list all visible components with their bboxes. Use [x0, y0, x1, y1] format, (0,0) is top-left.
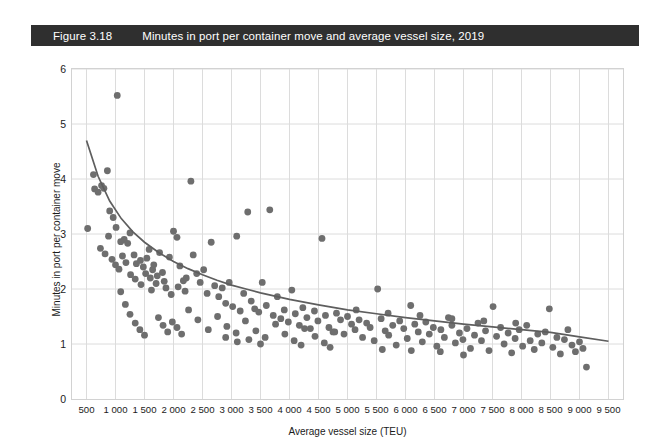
scatter-point [277, 315, 284, 322]
scatter-point [110, 214, 117, 221]
scatter-point [553, 334, 560, 341]
plot-area [71, 68, 624, 400]
scatter-point [208, 239, 215, 246]
scatter-point [512, 335, 519, 342]
scatter-point [460, 352, 467, 359]
scatter-point [331, 329, 338, 336]
scatter-point [222, 334, 229, 341]
scatter-point [147, 275, 154, 282]
scatter-point [281, 331, 288, 338]
scatter-point [389, 322, 396, 329]
scatter-point [379, 346, 386, 353]
scatter-point [374, 286, 381, 293]
scatter-point [150, 261, 157, 268]
x-tick-label: 8 500 [538, 404, 562, 415]
scatter-point [417, 312, 424, 319]
x-tick-label: 4 500 [306, 404, 330, 415]
scatter-point [437, 326, 444, 333]
scatter-point [123, 259, 130, 266]
y-tick-label: 4 [26, 173, 66, 185]
scatter-point [154, 272, 161, 279]
x-tick-label: 7 500 [480, 404, 504, 415]
x-tick-label: 5 000 [335, 404, 359, 415]
y-tick-label: 0 [26, 393, 66, 405]
scatter-point [452, 340, 459, 347]
scatter-point [285, 319, 292, 326]
scatter-point [102, 250, 109, 257]
scatter-point [501, 341, 508, 348]
scatter-point [400, 325, 407, 332]
scatter-point [117, 288, 124, 295]
y-tick-label: 1 [26, 338, 66, 350]
figure-number: Figure 3.18 [53, 30, 112, 42]
scatter-points-layer [72, 69, 623, 399]
scatter-point [315, 318, 322, 325]
scatter-point [116, 266, 123, 273]
scatter-point [234, 338, 241, 345]
x-tick-label: 9 000 [567, 404, 591, 415]
x-tick-label: 8 000 [509, 404, 533, 415]
x-tick-label: 3 500 [248, 404, 272, 415]
x-tick-label: 2 500 [190, 404, 214, 415]
scatter-point [178, 331, 185, 338]
scatter-point [441, 334, 448, 341]
scatter-point [493, 333, 500, 340]
scatter-point [183, 275, 190, 282]
scatter-point [404, 335, 411, 342]
scatter-point [508, 349, 515, 356]
scatter-point [301, 325, 308, 332]
scatter-point [333, 310, 340, 317]
scatter-point [246, 336, 253, 343]
scatter-point [95, 189, 102, 196]
scatter-point [248, 298, 255, 305]
scatter-point [478, 337, 485, 344]
scatter-point [538, 340, 545, 347]
scatter-point [299, 304, 306, 311]
y-tick-label: 5 [26, 118, 66, 130]
scatter-point [437, 348, 444, 355]
y-tick-label: 3 [26, 228, 66, 240]
scatter-point [97, 245, 104, 252]
scatter-point [337, 316, 344, 323]
scatter-point [557, 351, 564, 358]
scatter-point [527, 337, 534, 344]
scatter-point [291, 337, 298, 344]
scatter-point [214, 313, 221, 320]
scatter-point [131, 252, 138, 259]
x-tick-label: 7 000 [451, 404, 475, 415]
scatter-point [307, 325, 314, 332]
scatter-point [122, 301, 129, 308]
scatter-point [266, 206, 273, 213]
scatter-point [419, 338, 426, 345]
scatter-point [569, 342, 576, 349]
scatter-point [321, 340, 328, 347]
scatter-point [255, 309, 262, 316]
scatter-point [105, 233, 112, 240]
scatter-point [356, 316, 363, 323]
scatter-point [233, 330, 240, 337]
scatter-point [106, 208, 113, 215]
x-tick-label: 6 500 [422, 404, 446, 415]
scatter-point [262, 334, 269, 341]
scatter-point [270, 312, 277, 319]
x-axis-title: Average vessel size (TEU) [71, 426, 624, 437]
scatter-point [415, 329, 422, 336]
scatter-point [319, 235, 326, 242]
scatter-point [168, 291, 175, 298]
scatter-point [140, 264, 147, 271]
scatter-point [576, 338, 583, 345]
scatter-point [215, 293, 222, 300]
x-tick-label: 500 [78, 404, 94, 415]
scatter-point [194, 316, 201, 323]
scatter-point [205, 326, 212, 333]
scatter-point [143, 255, 150, 262]
scatter-point [298, 342, 305, 349]
scatter-point [565, 326, 572, 333]
scatter-point [175, 283, 182, 290]
scatter-point [561, 336, 568, 343]
scatter-point [327, 344, 334, 351]
scatter-point [114, 92, 121, 99]
scatter-point [281, 307, 288, 314]
x-tick-label: 2 000 [161, 404, 185, 415]
scatter-point [190, 252, 197, 259]
